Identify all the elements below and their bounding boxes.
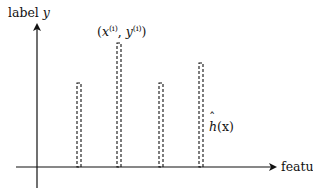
point-label-sup-y: (i)	[133, 24, 142, 33]
y-axis-label: label y	[8, 5, 51, 20]
bar-4	[199, 63, 203, 167]
x-axis-label: feature x	[281, 159, 313, 174]
bar-3	[159, 83, 163, 167]
bar-1	[77, 83, 81, 167]
bars	[77, 43, 203, 167]
point-label: (x(i), y(i))	[97, 24, 146, 39]
bar-2	[117, 43, 121, 167]
diagram-canvas: label y (x(i), y(i)) h(x) ˆ feature x	[0, 0, 313, 196]
hypothesis-hat: ˆ	[209, 110, 215, 125]
